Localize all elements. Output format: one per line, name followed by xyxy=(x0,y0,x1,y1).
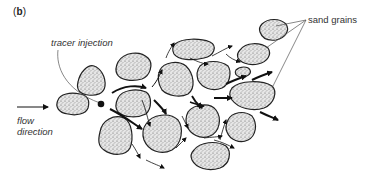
flow-arrow xyxy=(146,160,164,168)
sand-grains xyxy=(57,20,288,170)
flow-arrow xyxy=(220,120,226,140)
grain xyxy=(197,62,230,90)
grain xyxy=(235,67,250,77)
grain xyxy=(116,90,150,117)
grain xyxy=(226,113,256,142)
grain xyxy=(186,105,219,137)
grain xyxy=(116,53,151,80)
grain xyxy=(158,63,193,97)
grain xyxy=(260,20,288,41)
flow-arrow-bold xyxy=(260,112,278,120)
flow-arrow xyxy=(212,46,232,56)
grain xyxy=(77,66,105,96)
grain xyxy=(173,39,215,59)
grain xyxy=(99,117,132,155)
grain xyxy=(238,44,270,65)
flow-arrow xyxy=(132,144,140,158)
porous-media-diagram xyxy=(0,0,365,182)
injection-point xyxy=(98,101,105,108)
flow-arrow-bold xyxy=(252,72,272,80)
flow-arrow-bold xyxy=(154,100,166,114)
grain xyxy=(57,93,89,115)
grain xyxy=(230,82,275,110)
grain xyxy=(191,143,229,170)
